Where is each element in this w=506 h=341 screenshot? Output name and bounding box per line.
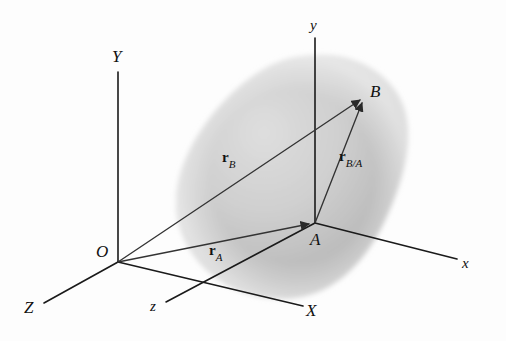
vector-label-rB: rB bbox=[222, 150, 235, 168]
axis-label-x-lowercase: x bbox=[462, 256, 469, 271]
vector-subscript-BA: B/A bbox=[346, 157, 363, 169]
vector-label-rBA: rB/A bbox=[339, 149, 362, 167]
vector-subscript-B: B bbox=[229, 158, 236, 170]
axis-label-z-lowercase: z bbox=[150, 299, 156, 314]
point-label-B: B bbox=[370, 83, 380, 100]
axis-label-Z-uppercase: Z bbox=[24, 299, 33, 316]
point-label-O: O bbox=[96, 243, 108, 260]
relative-position-vector-figure: Y X Z y x z O A B rB rA rB/A bbox=[0, 0, 506, 341]
diagram-canvas bbox=[0, 0, 506, 341]
vector-label-rA: rA bbox=[209, 243, 222, 261]
point-label-A: A bbox=[310, 231, 320, 248]
vector-subscript-A: A bbox=[216, 251, 223, 263]
axis-line-Z-uppercase bbox=[44, 262, 118, 303]
vector-symbol-r: r bbox=[222, 149, 229, 165]
axis-label-X-uppercase: X bbox=[306, 302, 316, 319]
vector-symbol-r: r bbox=[209, 242, 216, 258]
vector-symbol-r: r bbox=[339, 148, 346, 164]
axis-label-y-lowercase: y bbox=[310, 18, 317, 33]
axis-label-Y-uppercase: Y bbox=[112, 48, 121, 65]
